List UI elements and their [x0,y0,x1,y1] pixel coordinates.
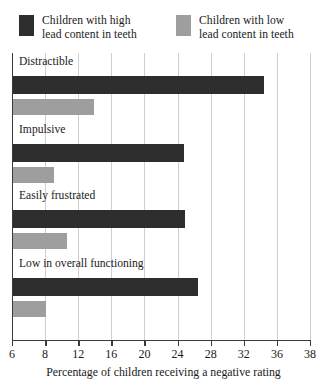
bar-high-lead [13,76,264,94]
x-axis-tick [310,341,311,346]
x-axis-tick [144,341,145,346]
x-axis-tick-label: 20 [138,347,150,361]
bar-group-label: Easily frustrated [19,189,95,202]
bar-high-lead [13,210,185,228]
x-axis-tick [111,341,112,346]
bar-high-lead [13,278,198,296]
legend-label-high-lead: Children with high lead content in teeth [42,14,137,42]
x-axis-tick [211,341,212,346]
x-axis-tick-labels: 681216202428323638 [0,347,327,363]
x-axis-title: Percentage of children receiving a negat… [0,365,327,379]
x-axis-tick-label: 38 [304,347,316,361]
chart-figure: Children with high lead content in teeth… [0,0,327,384]
x-axis-tick-label: 8 [42,347,48,361]
bar-low-lead [13,233,67,249]
x-axis-tick [12,341,13,346]
x-axis-tick-label: 32 [238,347,250,361]
legend-item-low-lead: Children with low lead content in teeth [176,14,294,42]
bar-group: Easily frustrated [12,189,311,253]
x-axis-tick-label: 12 [72,347,84,361]
x-axis-tick-label: 36 [271,347,283,361]
bar-group-label: Low in overall functioning [19,257,144,270]
bar-group-label: Impulsive [19,123,65,136]
x-axis-tick-label: 16 [105,347,117,361]
x-axis-tick [178,341,179,346]
x-axis-tick-label: 28 [205,347,217,361]
x-axis-tick [244,341,245,346]
bar-group: Distractible [12,55,311,119]
x-axis-tick [78,341,79,346]
x-axis-tick-label: 6 [9,347,15,361]
legend-label-low-lead: Children with low lead content in teeth [199,14,294,42]
bar-high-lead [13,144,184,162]
bar-low-lead [13,301,46,317]
bar-group: Low in overall functioning [12,257,311,321]
bar-group-label: Distractible [19,55,73,68]
chart-legend: Children with high lead content in teeth… [0,12,327,52]
bar-low-lead [13,167,54,183]
plot-area: DistractibleImpulsiveEasily frustratedLo… [12,53,311,341]
legend-swatch-low-lead [176,15,191,36]
bar-group: Impulsive [12,123,311,187]
x-axis-tick-label: 24 [172,347,184,361]
bar-low-lead [13,99,94,115]
x-axis-tick [277,341,278,346]
legend-swatch-high-lead [19,15,34,36]
x-axis-tick [45,341,46,346]
legend-item-high-lead: Children with high lead content in teeth [19,14,137,42]
